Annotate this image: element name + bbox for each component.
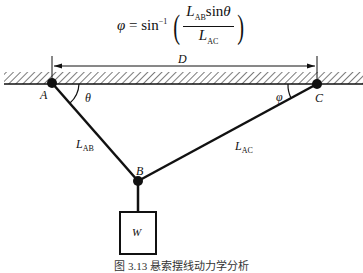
label-theta: θ	[85, 91, 91, 106]
dim-arrow-left	[54, 64, 62, 69]
joint-a	[47, 78, 57, 88]
dim-arrow-right	[307, 64, 315, 69]
label-w: W	[132, 226, 141, 238]
label-c: C	[315, 91, 323, 106]
label-d: D	[178, 52, 187, 67]
link-ab	[52, 83, 138, 181]
label-b: B	[136, 164, 143, 179]
link-bc	[138, 84, 317, 181]
phi-arc	[288, 84, 291, 98]
lac-sub: AC	[242, 146, 253, 155]
label-lac: LAC	[235, 139, 253, 155]
label-phi: φ	[276, 90, 283, 105]
joint-c	[312, 79, 322, 89]
ground-hatch	[4, 72, 363, 84]
figure-caption: 图 3.13 悬索摆线动力学分析	[0, 257, 363, 273]
label-lab: LAB	[76, 137, 94, 153]
lab-sub: AB	[83, 144, 94, 153]
theta-arc	[70, 84, 79, 103]
label-a: A	[40, 88, 47, 103]
lac-L: L	[235, 139, 242, 153]
lab-L: L	[76, 137, 83, 151]
